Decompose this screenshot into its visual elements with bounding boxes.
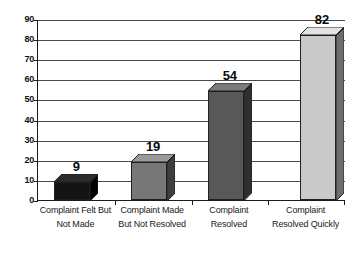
bar-side-face-3 (244, 84, 252, 200)
gridline-40 (38, 121, 345, 122)
bar-value-label-2: 19 (146, 140, 160, 153)
bar-front-face-1 (54, 182, 90, 200)
bar-value-label-4: 82 (315, 13, 329, 26)
y-tick-label-80: 80 (6, 35, 34, 44)
bar-top-face-4 (300, 27, 344, 35)
bar-value-label-1: 9 (73, 160, 80, 173)
y-tick-mark-30 (34, 141, 38, 142)
bar-3[interactable]: 54 (208, 91, 244, 200)
y-tick-label-10: 10 (6, 176, 34, 185)
y-tick-mark-50 (34, 100, 38, 101)
y-tick-mark-40 (34, 121, 38, 122)
y-tick-label-40: 40 (6, 116, 34, 125)
bar-front-face-2 (131, 162, 167, 200)
y-tick-mark-70 (34, 60, 38, 61)
x-category-line2-4: Resolved Quickly (259, 218, 352, 232)
gridline-70 (38, 60, 345, 61)
x-category-label-4: ComplaintResolved Quickly (259, 204, 352, 231)
bar-4[interactable]: 82 (300, 35, 336, 200)
y-tick-mark-80 (34, 40, 38, 41)
y-tick-mark-60 (34, 80, 38, 81)
bar-value-label-3: 54 (223, 69, 237, 82)
y-tick-label-20: 20 (6, 156, 34, 165)
y-tick-mark-20 (34, 161, 38, 162)
gridline-30 (38, 141, 345, 142)
y-tick-label-90: 90 (6, 15, 34, 24)
gridline-20 (38, 161, 345, 162)
bar-1[interactable]: 9 (54, 182, 90, 200)
x-axis-labels: Complaint Felt ButNot MadeComplaint Made… (37, 204, 345, 254)
y-tick-mark-10 (34, 181, 38, 182)
y-tick-label-70: 70 (6, 55, 34, 64)
bar-top-face-2 (131, 154, 175, 162)
bar-chart: 0102030405060708090 9195482 Complaint Fe… (0, 0, 362, 259)
y-tick-mark-0 (34, 201, 38, 202)
gridline-50 (38, 100, 345, 101)
gridline-60 (38, 80, 345, 81)
bar-2[interactable]: 19 (131, 162, 167, 200)
bar-front-face-4 (300, 35, 336, 200)
bar-top-face-3 (208, 83, 252, 91)
bar-top-face-1 (54, 174, 98, 182)
y-tick-label-60: 60 (6, 75, 34, 84)
gridline-90 (38, 20, 345, 21)
plot-area: 9195482 (37, 20, 345, 201)
bar-side-face-4 (336, 28, 344, 200)
x-category-line1-4: Complaint (259, 204, 352, 218)
y-tick-label-50: 50 (6, 95, 34, 104)
gridline-80 (38, 40, 345, 41)
y-tick-label-30: 30 (6, 136, 34, 145)
bar-front-face-3 (208, 91, 244, 200)
y-tick-mark-90 (34, 20, 38, 21)
